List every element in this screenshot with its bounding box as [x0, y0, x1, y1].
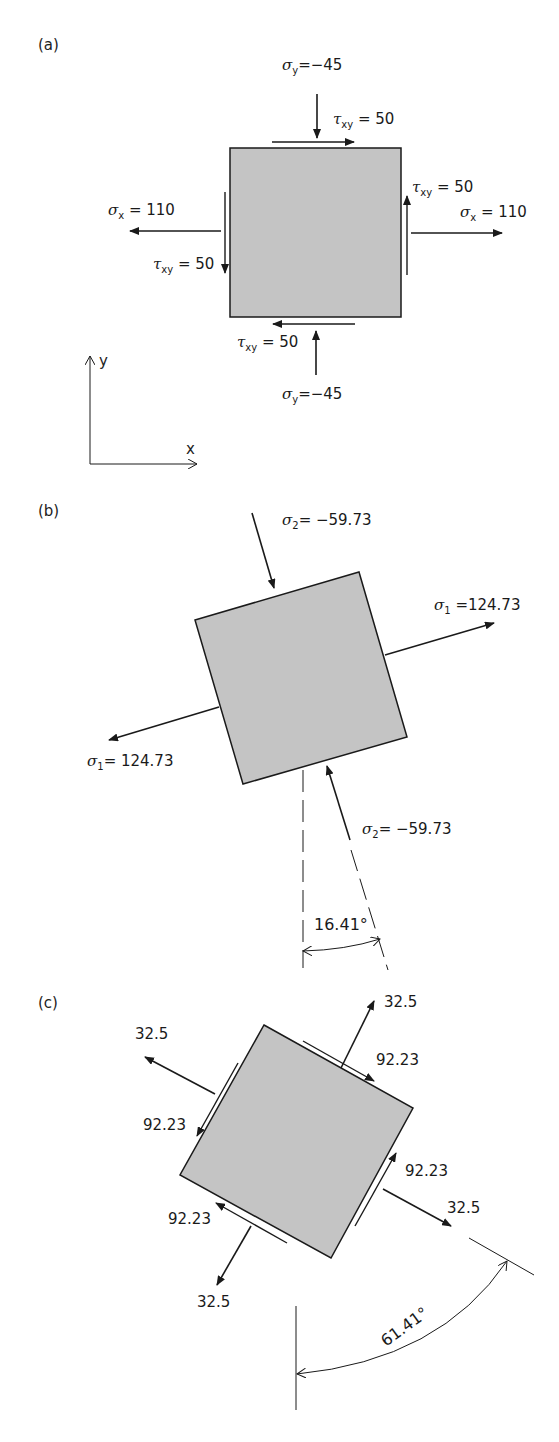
subscript: xy	[341, 119, 353, 130]
value: =−45	[298, 385, 342, 403]
subscript: 1	[444, 605, 450, 616]
sigma-y-bottom-label: σy=−45	[282, 387, 342, 402]
sigma-symbol: σ	[282, 511, 292, 529]
sigma-symbol: σ	[282, 56, 292, 74]
panel-label-c: (c)	[38, 994, 58, 1012]
sigma2-bottom-label: σ2= −59.73	[362, 822, 451, 837]
x-axis-label: x	[186, 440, 195, 458]
sigma-symbol: σ	[108, 201, 118, 219]
shear-top-right-label: 92.23	[376, 1053, 419, 1068]
shear-bottom-right-label: 92.23	[405, 1164, 448, 1179]
sigma-symbol: σ	[460, 203, 470, 221]
value: =−45	[298, 56, 342, 74]
sigma2-top-label: σ2= −59.73	[282, 513, 371, 528]
sigma-y-top-label: σy=−45	[282, 58, 342, 73]
normal-top-right-label: 32.5	[384, 995, 417, 1010]
tau-bottom-label: τxy = 50	[237, 335, 298, 350]
subscript: 1	[97, 761, 103, 772]
y-axis-label: y	[99, 352, 108, 370]
value: = 50	[173, 255, 214, 273]
shear-top-left-label: 92.23	[143, 1118, 186, 1133]
angle-arc-b	[303, 939, 380, 951]
subscript: 2	[292, 520, 298, 531]
value: = 124.73	[104, 752, 174, 770]
sigma-x-right-label: σx = 110	[460, 205, 527, 220]
sigma-x-left-label: σx = 110	[108, 203, 175, 218]
principal-stress-element-b	[195, 572, 407, 784]
subscript: x	[470, 212, 476, 223]
panel-a	[90, 94, 502, 464]
normal-top-left-label: 32.5	[135, 1027, 168, 1042]
subscript: xy	[245, 342, 257, 353]
normal-bottom-right-label: 32.5	[447, 1201, 480, 1216]
tau-left-label: τxy = 50	[153, 257, 214, 272]
normal-bottom-left-label: 32.5	[197, 1295, 230, 1310]
stress-element-a	[230, 148, 401, 317]
sigma-symbol: σ	[282, 385, 292, 403]
sigma-symbol: σ	[87, 752, 97, 770]
value: =124.73	[451, 596, 521, 614]
value: = −59.73	[379, 820, 452, 838]
value: = −59.73	[299, 511, 372, 529]
sigma-symbol: σ	[362, 820, 372, 838]
sigma1-left-label: σ1= 124.73	[87, 754, 173, 769]
tau-right-label: τxy = 50	[412, 180, 473, 195]
value: = 110	[476, 203, 527, 221]
tau-top-label: τxy = 50	[333, 112, 394, 127]
value: = 50	[432, 178, 473, 196]
shear-bottom-left-label: 92.23	[168, 1212, 211, 1227]
value: = 50	[257, 333, 298, 351]
panel-label-b: (b)	[38, 502, 59, 520]
subscript: y	[292, 394, 298, 405]
subscript: 2	[372, 829, 378, 840]
panel-b	[109, 513, 494, 970]
value: = 50	[353, 110, 394, 128]
subscript: xy	[161, 264, 173, 275]
sigma1-right-label: σ1 =124.73	[434, 598, 520, 613]
angle-label-b: 16.41°	[314, 917, 368, 933]
subscript: y	[292, 65, 298, 76]
subscript: xy	[420, 187, 432, 198]
panel-label-a: (a)	[38, 36, 59, 54]
value: = 110	[124, 201, 175, 219]
subscript: x	[118, 210, 124, 221]
sigma-symbol: σ	[434, 596, 444, 614]
coordinate-axes	[90, 356, 197, 464]
